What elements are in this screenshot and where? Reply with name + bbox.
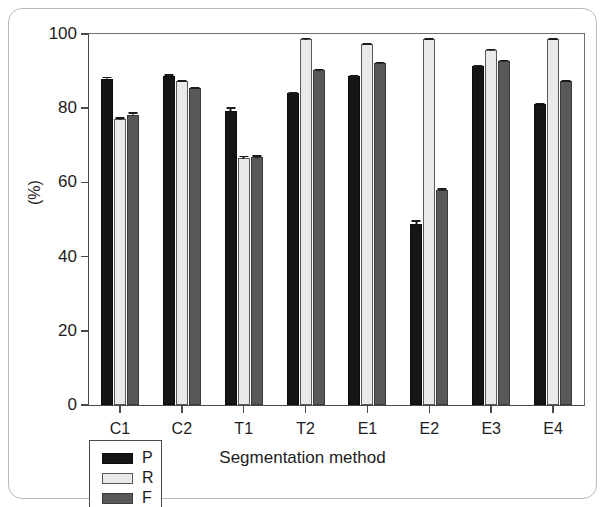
error-bar-T1-R: [239, 156, 248, 159]
y-tick-label: 100: [49, 24, 77, 44]
legend-item-R: R: [102, 469, 161, 487]
error-bar-cap: [549, 38, 558, 40]
legend-label-P: P: [142, 450, 153, 466]
legend-item-F: F: [102, 489, 161, 507]
legend-swatch-R: [102, 473, 133, 484]
error-bar-cap: [102, 77, 111, 79]
y-tick-mark: [81, 182, 89, 184]
bar-C1-R: [114, 119, 126, 405]
error-bar-cap: [314, 69, 323, 71]
chart-legend: PRF: [89, 440, 162, 507]
error-bar-E2-F: [438, 188, 447, 191]
x-tick-mark: [367, 405, 369, 413]
bar-E2-R: [423, 39, 435, 405]
bar-T1-P: [225, 111, 237, 405]
error-bar-cap: [474, 65, 483, 67]
error-bar-E3-F: [500, 60, 509, 62]
y-tick-label: 40: [58, 247, 77, 267]
error-bar-cap: [115, 117, 124, 119]
bar-E3-F: [498, 61, 510, 405]
bar-T2-F: [313, 70, 325, 405]
bar-E4-F: [560, 81, 572, 405]
error-bar-C1-F: [128, 112, 137, 115]
error-bar-cap: [487, 49, 496, 51]
error-bar-cap: [252, 155, 261, 157]
error-bar-cap: [190, 87, 199, 89]
bar-group: [225, 34, 263, 405]
error-bar-T2-F: [314, 69, 323, 71]
error-bar-C2-F: [190, 87, 199, 89]
error-bar-E3-P: [474, 65, 483, 67]
bars-layer: [89, 34, 584, 405]
error-bar-E4-F: [562, 80, 571, 82]
bar-group: [472, 34, 510, 405]
error-bar-cap: [177, 80, 186, 82]
error-bar-cap: [376, 62, 385, 64]
error-bar-C1-P: [102, 77, 111, 80]
error-bar-E4-R: [549, 38, 558, 40]
x-tick-mark: [305, 405, 307, 413]
bar-E2-P: [410, 224, 422, 405]
bar-E4-R: [547, 39, 559, 405]
error-bar-T2-R: [301, 38, 310, 40]
error-bar-T1-F: [252, 155, 261, 158]
x-tick-label-E2: E2: [420, 420, 440, 438]
bar-T1-R: [238, 158, 250, 405]
x-tick-label-E1: E1: [358, 420, 378, 438]
error-bar-T1-P: [226, 107, 235, 111]
y-tick-mark: [81, 33, 89, 35]
x-tick-mark: [490, 405, 492, 413]
error-bar-C2-R: [177, 80, 186, 82]
bar-T2-R: [300, 39, 312, 405]
y-tick-label: 80: [58, 98, 77, 118]
error-bar-cap: [425, 38, 434, 40]
x-tick-label-C1: C1: [110, 420, 130, 438]
x-tick-mark: [181, 405, 183, 413]
x-tick-label-T1: T1: [234, 420, 253, 438]
bar-C2-R: [176, 81, 188, 405]
error-bar-E3-R: [487, 49, 496, 51]
error-bar-cap: [301, 38, 310, 40]
bar-group: [101, 34, 139, 405]
y-axis-title: (%): [26, 180, 44, 205]
plot-area: 020406080100 C1C2T1T2E1E2E3E4: [88, 33, 585, 406]
legend-swatch-F: [102, 493, 133, 504]
bar-E2-F: [436, 190, 448, 405]
x-tick-mark: [552, 405, 554, 413]
error-bar-cap: [128, 112, 137, 114]
bar-C2-F: [189, 88, 201, 405]
bar-E3-R: [485, 50, 497, 405]
bar-E4-P: [534, 104, 546, 405]
error-bar-T2-P: [288, 92, 297, 94]
error-bar-E1-R: [363, 43, 372, 45]
error-bar-E1-F: [376, 62, 385, 64]
error-bar-cap: [536, 103, 545, 105]
x-tick-label-C2: C2: [172, 420, 192, 438]
bar-T1-F: [251, 157, 263, 405]
bar-C1-P: [101, 79, 113, 405]
error-bar-cap: [288, 92, 297, 94]
bar-E1-F: [374, 63, 386, 405]
x-tick-label-E3: E3: [481, 420, 501, 438]
error-bar-E4-P: [536, 103, 545, 105]
legend-item-P: P: [102, 449, 161, 467]
x-tick-mark: [243, 405, 245, 413]
figure-panel: (%) 020406080100 C1C2T1T2E1E2E3E4 Segmen…: [0, 0, 605, 507]
y-tick-label: 0: [68, 395, 77, 415]
bar-C2-P: [163, 76, 175, 405]
bar-group: [287, 34, 325, 405]
bar-T2-P: [287, 93, 299, 405]
error-bar-E1-P: [350, 75, 359, 77]
bar-E1-R: [361, 44, 373, 405]
error-bar-cap: [438, 188, 447, 190]
bar-E1-P: [348, 76, 360, 405]
error-bar-cap: [363, 43, 372, 45]
x-tick-mark: [429, 405, 431, 413]
legend-label-R: R: [142, 470, 154, 486]
legend-label-F: F: [142, 490, 152, 506]
y-tick-mark: [81, 107, 89, 109]
error-bar-cap: [412, 220, 421, 222]
error-bar-cap: [350, 75, 359, 77]
bar-group: [348, 34, 386, 405]
x-tick-mark: [119, 405, 121, 413]
